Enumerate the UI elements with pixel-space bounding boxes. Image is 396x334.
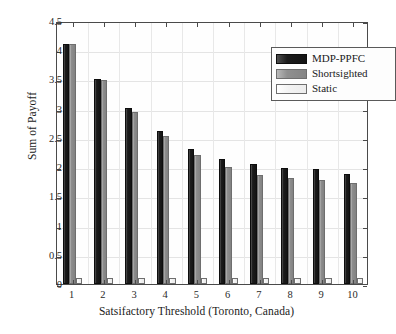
x-tick-mark — [260, 23, 261, 27]
x-tick-mark — [353, 23, 354, 27]
y-tick-label: 3.5 — [22, 75, 62, 86]
bar-group — [219, 23, 238, 284]
bar — [107, 278, 113, 284]
bar — [357, 278, 363, 284]
x-tick-mark — [73, 23, 74, 27]
bar — [225, 167, 231, 284]
bar — [325, 278, 331, 284]
bar-group — [125, 23, 144, 284]
x-tick-label: 2 — [88, 289, 118, 300]
vertical-gridline — [151, 23, 152, 284]
x-tick-mark — [135, 280, 136, 284]
bar — [163, 136, 169, 284]
bar-group — [188, 23, 207, 284]
legend-swatch-icon — [276, 84, 307, 94]
y-tick-label: 4 — [22, 46, 62, 57]
y-tick-label: 2 — [22, 163, 62, 174]
y-axis-title: Sum of Payoff — [26, 46, 38, 206]
y-tick-mark — [363, 198, 367, 199]
bar — [288, 178, 294, 284]
y-tick-mark — [363, 169, 367, 170]
bar — [294, 278, 300, 284]
x-tick-mark — [322, 23, 323, 27]
bar — [319, 180, 325, 284]
y-tick-mark — [363, 228, 367, 229]
legend-item-0: MDP-PPFC — [276, 51, 391, 66]
y-tick-label: 4.5 — [22, 17, 62, 28]
vertical-gridline — [119, 23, 120, 284]
legend-item-1: Shortsighted — [276, 66, 391, 81]
x-tick-mark — [291, 280, 292, 284]
plot-area: MDP-PPFC Shortsighted Static — [56, 22, 368, 285]
x-tick-mark — [353, 280, 354, 284]
x-tick-label: 9 — [306, 289, 336, 300]
x-tick-label: 3 — [119, 289, 149, 300]
bar-group — [157, 23, 176, 284]
bar — [69, 44, 75, 284]
bar — [201, 278, 207, 284]
y-tick-label: 3 — [22, 104, 62, 115]
y-tick-label: 1 — [22, 221, 62, 232]
y-tick-mark — [363, 140, 367, 141]
x-tick-label: 7 — [244, 289, 274, 300]
x-tick-label: 5 — [181, 289, 211, 300]
bar-group — [94, 23, 113, 284]
bar-group — [250, 23, 269, 284]
x-tick-label: 8 — [275, 289, 305, 300]
x-tick-label: 4 — [150, 289, 180, 300]
chart-legend: MDP-PPFC Shortsighted Static — [271, 47, 396, 101]
bar — [76, 278, 82, 284]
y-tick-label: 1.5 — [22, 192, 62, 203]
legend-swatch-icon — [276, 54, 307, 64]
y-tick-mark — [363, 286, 367, 287]
x-tick-mark — [166, 280, 167, 284]
legend-item-2: Static — [276, 81, 391, 96]
legend-label: MDP-PPFC — [312, 53, 365, 64]
x-tick-mark — [197, 23, 198, 27]
vertical-gridline — [88, 23, 89, 284]
legend-label: Static — [312, 83, 337, 94]
y-tick-label: 0.5 — [22, 251, 62, 262]
y-tick-label: 2.5 — [22, 134, 62, 145]
y-tick-mark — [363, 257, 367, 258]
bar — [194, 155, 200, 284]
bar — [263, 278, 269, 284]
legend-swatch-icon — [276, 69, 307, 79]
x-axis-title: Satsifactory Threshold (Toronto, Canada) — [0, 305, 393, 317]
bar-group — [63, 23, 82, 284]
bar — [138, 278, 144, 284]
bar — [232, 278, 238, 284]
x-tick-mark — [166, 23, 167, 27]
x-tick-label: 1 — [57, 289, 87, 300]
x-tick-mark — [229, 280, 230, 284]
bar — [132, 112, 138, 284]
x-tick-mark — [104, 23, 105, 27]
vertical-gridline — [213, 23, 214, 284]
bar — [101, 80, 107, 284]
vertical-gridline — [182, 23, 183, 284]
x-tick-mark — [260, 280, 261, 284]
x-tick-mark — [229, 23, 230, 27]
y-tick-mark — [363, 111, 367, 112]
y-tick-mark — [363, 23, 367, 24]
legend-label: Shortsighted — [312, 68, 368, 79]
bar — [169, 278, 175, 284]
bar — [350, 183, 356, 284]
x-tick-mark — [322, 280, 323, 284]
x-tick-mark — [135, 23, 136, 27]
bar — [257, 175, 263, 284]
x-tick-label: 10 — [337, 289, 367, 300]
x-tick-mark — [197, 280, 198, 284]
x-tick-label: 6 — [213, 289, 243, 300]
x-tick-mark — [291, 23, 292, 27]
x-tick-mark — [104, 280, 105, 284]
x-tick-mark — [73, 280, 74, 284]
vertical-gridline — [244, 23, 245, 284]
